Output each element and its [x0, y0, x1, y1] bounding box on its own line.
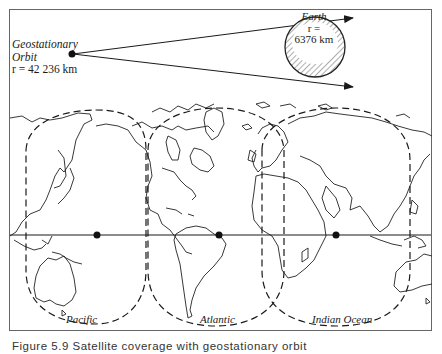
coverage-pacific [26, 110, 146, 324]
coverage-regions [26, 108, 410, 326]
world-map [10, 102, 432, 318]
satellite-dot-pacific [94, 232, 101, 239]
geostationary-orbit-label: Geostationary Orbit r = 42 236 km [12, 38, 78, 76]
earth-label: Earth r = 6376 km [286, 11, 342, 46]
earth-radius-value: 6376 km [286, 34, 342, 46]
geostationary-radius: r = 42 236 km [12, 63, 78, 76]
figure-caption: Figure 5.9 Satellite coverage with geost… [12, 340, 307, 352]
geostationary-title: Geostationary [12, 38, 78, 51]
region-label-indian-ocean: Indian Ocean [312, 314, 372, 325]
satellite-dot-indian-ocean [333, 232, 340, 239]
satellite-dot-atlantic [216, 232, 223, 239]
orbit-title: Orbit [12, 51, 78, 64]
region-label-pacific: Pacific [66, 314, 97, 325]
earth-title: Earth [286, 11, 342, 23]
region-label-atlantic: Atlantic [200, 314, 235, 325]
coverage-atlantic [148, 108, 284, 326]
